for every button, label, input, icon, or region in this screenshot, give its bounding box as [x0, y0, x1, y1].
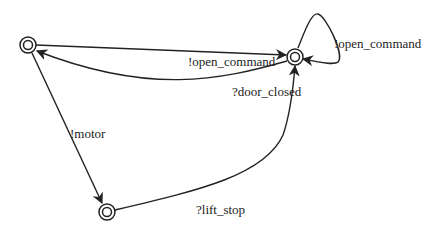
label-s1-self: !open_command	[334, 37, 421, 50]
label-s2-s1: ?lift_stop	[196, 203, 245, 216]
state-s0	[20, 37, 36, 53]
state-s2	[99, 204, 115, 220]
state-machine-diagram: !open_command ?door_closed !open_command…	[0, 0, 445, 236]
label-s1-s0: ?door_closed	[232, 85, 301, 98]
label-s0-s1: !open_command	[188, 55, 275, 68]
state-s1	[287, 49, 303, 65]
label-s0-s2: !motor	[70, 127, 105, 140]
